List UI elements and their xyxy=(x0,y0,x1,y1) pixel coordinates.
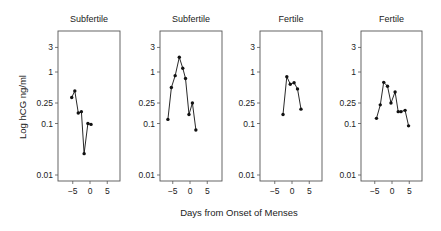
data-point xyxy=(89,123,92,126)
y-tick-label: 0.01 xyxy=(36,170,53,180)
data-point xyxy=(292,81,295,84)
y-tick-label: 1 xyxy=(150,67,155,77)
data-point xyxy=(296,87,299,90)
y-axis-label: Log hCG ng/ml xyxy=(17,75,28,139)
data-point xyxy=(407,124,410,127)
data-point xyxy=(70,96,73,99)
panel-title: Fertile xyxy=(379,14,404,24)
y-axis: 310.250.10.01 xyxy=(138,42,160,180)
y-axis: 310.250.10.01 xyxy=(238,42,260,180)
panel-frame xyxy=(260,31,322,181)
data-point xyxy=(173,74,176,77)
data-point xyxy=(281,113,284,116)
x-tick-label: −5 xyxy=(370,186,380,196)
x-tick-label: 0 xyxy=(188,186,193,196)
data-point xyxy=(181,67,184,70)
hcg-small-multiples-chart: Log hCG ng/ml Days from Onset of Menses … xyxy=(0,0,441,231)
data-point xyxy=(178,56,181,59)
x-tick-label: 0 xyxy=(290,186,295,196)
data-point xyxy=(170,86,173,89)
data-point xyxy=(382,81,385,84)
data-point xyxy=(194,128,197,131)
data-point xyxy=(399,110,402,113)
x-axis: −505 xyxy=(270,181,312,196)
data-point xyxy=(73,89,76,92)
y-tick-label: 0.1 xyxy=(41,119,53,129)
panel-1: Subfertile310.250.10.01−505 xyxy=(36,14,120,196)
y-tick-label: 0.25 xyxy=(238,98,255,108)
x-axis: −505 xyxy=(168,181,210,196)
y-tick-label: 0.1 xyxy=(143,119,155,129)
series-line xyxy=(283,77,301,115)
y-tick-label: 3 xyxy=(250,42,255,52)
x-tick-label: 5 xyxy=(407,186,412,196)
y-tick-label: 0.25 xyxy=(138,98,155,108)
data-point xyxy=(393,90,396,93)
y-tick-label: 0.01 xyxy=(339,170,356,180)
data-point xyxy=(80,110,83,113)
panel-title: Subfertile xyxy=(70,14,108,24)
panel-4: Fertile310.250.10.01−505 xyxy=(339,14,422,196)
panel-title: Subfertile xyxy=(172,14,210,24)
panels-group: Subfertile310.250.10.01−505Subfertile310… xyxy=(36,14,422,196)
chart-canvas: Log hCG ng/ml Days from Onset of Menses … xyxy=(0,0,441,231)
x-axis: −505 xyxy=(68,181,110,196)
y-axis: 310.250.10.01 xyxy=(36,42,58,180)
data-point xyxy=(403,109,406,112)
data-point xyxy=(187,113,190,116)
y-tick-label: 3 xyxy=(150,42,155,52)
data-point xyxy=(379,103,382,106)
y-tick-label: 0.01 xyxy=(138,170,155,180)
panel-frame xyxy=(361,31,422,181)
data-point xyxy=(299,107,302,110)
x-tick-label: 5 xyxy=(205,186,210,196)
data-point xyxy=(375,117,378,120)
panel-2: Subfertile310.250.10.01−505 xyxy=(138,14,222,196)
x-tick-label: 5 xyxy=(105,186,110,196)
x-axis-label: Days from Onset of Menses xyxy=(180,207,298,218)
y-tick-label: 0.25 xyxy=(339,98,356,108)
x-tick-label: 0 xyxy=(390,186,395,196)
y-tick-label: 1 xyxy=(48,67,53,77)
data-point xyxy=(191,101,194,104)
x-tick-label: 0 xyxy=(88,186,93,196)
x-axis: −505 xyxy=(370,181,412,196)
x-tick-label: −5 xyxy=(68,186,78,196)
x-tick-label: 5 xyxy=(307,186,312,196)
y-tick-label: 0.01 xyxy=(238,170,255,180)
panel-title: Fertile xyxy=(278,14,303,24)
y-tick-label: 1 xyxy=(351,67,356,77)
data-point xyxy=(82,152,85,155)
panel-frame xyxy=(58,31,120,181)
data-point xyxy=(184,77,187,80)
y-tick-label: 0.25 xyxy=(36,98,53,108)
data-point xyxy=(389,101,392,104)
data-point xyxy=(166,118,169,121)
data-point xyxy=(77,111,80,114)
x-tick-label: −5 xyxy=(168,186,178,196)
y-tick-label: 3 xyxy=(48,42,53,52)
panel-3: Fertile310.250.10.01−505 xyxy=(238,14,322,196)
y-axis: 310.250.10.01 xyxy=(339,42,361,180)
y-tick-label: 0.1 xyxy=(243,119,255,129)
y-tick-label: 1 xyxy=(250,67,255,77)
x-tick-label: −5 xyxy=(270,186,280,196)
data-point xyxy=(386,84,389,87)
y-tick-label: 0.1 xyxy=(344,119,356,129)
data-point xyxy=(289,82,292,85)
data-point xyxy=(86,122,89,125)
y-tick-label: 3 xyxy=(351,42,356,52)
data-point xyxy=(285,75,288,78)
